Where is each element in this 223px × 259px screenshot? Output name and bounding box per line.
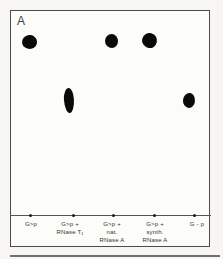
- origin-line: [10, 215, 211, 216]
- tlc-plate: [10, 10, 210, 247]
- bottom-rule: [10, 255, 220, 257]
- panel-label: A: [17, 15, 26, 27]
- figure-panel: A G>pG>p +RNase T₁G>p +nat.RNase AG>p +s…: [0, 0, 223, 259]
